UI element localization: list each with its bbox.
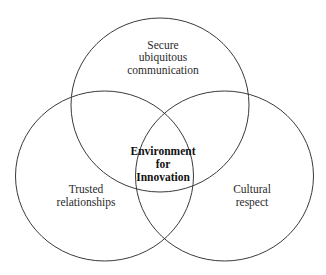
label-line: Trusted bbox=[69, 183, 104, 195]
label-secure-communication: Secure ubiquitous communication bbox=[127, 39, 199, 76]
label-environment-for-innovation: Environment for Innovation bbox=[131, 145, 196, 183]
venn-diagram: Secure ubiquitous communication Trusted … bbox=[0, 0, 326, 275]
label-line: ubiquitous bbox=[139, 51, 188, 64]
center-label-line: Innovation bbox=[136, 171, 190, 183]
label-line: relationships bbox=[57, 196, 116, 209]
center-label-line: for bbox=[156, 158, 171, 170]
label-line: communication bbox=[127, 64, 199, 76]
label-line: respect bbox=[236, 196, 269, 209]
label-line: Secure bbox=[147, 39, 178, 51]
label-line: Cultural bbox=[233, 183, 271, 195]
center-label-line: Environment bbox=[131, 145, 196, 157]
label-trusted-relationships: Trusted relationships bbox=[57, 183, 116, 209]
label-cultural-respect: Cultural respect bbox=[233, 183, 271, 209]
